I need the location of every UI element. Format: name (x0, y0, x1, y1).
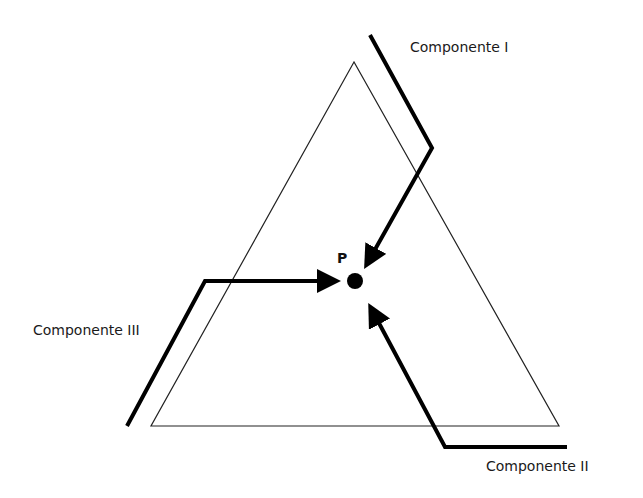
component-ii-label: Componente II (486, 458, 589, 474)
component-iii-label: Componente III (33, 322, 140, 338)
component-i-path (368, 35, 432, 262)
point-p-label: P (337, 250, 347, 266)
component-i-label: Componente I (410, 39, 508, 55)
triangle-outline (151, 62, 559, 426)
point-p (347, 273, 363, 289)
ternary-diagram (0, 0, 643, 498)
component-iii-path (127, 281, 333, 426)
